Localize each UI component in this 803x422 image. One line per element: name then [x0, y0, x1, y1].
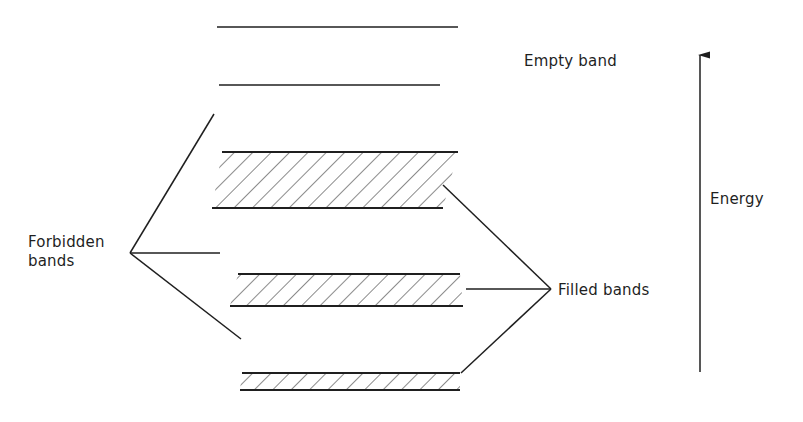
forbidden-label-line2: bands	[28, 252, 128, 271]
energy-axis-label: Energy	[710, 190, 764, 208]
filled-band-3	[240, 373, 460, 390]
forbidden-bands-pointer	[130, 114, 241, 339]
forbidden-pointer-upper	[130, 114, 214, 253]
filled-band-2-hatch	[230, 274, 463, 306]
empty-band-label: Empty band	[524, 52, 617, 70]
filled-band-1-hatch	[212, 152, 458, 208]
empty-band-levels	[217, 27, 458, 85]
filled-band-3-hatch	[240, 373, 460, 390]
forbidden-bands-label: Forbidden bands	[28, 233, 128, 271]
energy-band-diagram	[0, 0, 803, 422]
filled-bands-label: Filled bands	[558, 281, 650, 299]
filled-pointer-lower	[461, 289, 551, 373]
forbidden-label-line1: Forbidden	[28, 233, 128, 252]
forbidden-pointer-lower	[130, 253, 241, 339]
filled-band-1	[212, 152, 458, 208]
filled-band-2	[230, 274, 463, 306]
